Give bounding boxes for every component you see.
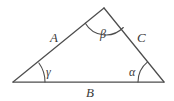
side-label-b: B [86, 86, 94, 99]
side-label-a: A [50, 31, 58, 44]
side-label-c: C [137, 31, 146, 44]
angle-label-alpha: α [129, 66, 135, 78]
angle-alpha-arc [138, 62, 148, 82]
angle-gamma-arc [39, 63, 45, 82]
triangle-diagram: A C B γ β α [0, 0, 174, 101]
angle-label-gamma: γ [46, 66, 51, 78]
angle-label-beta: β [100, 28, 106, 40]
side-a-edge [13, 8, 104, 82]
